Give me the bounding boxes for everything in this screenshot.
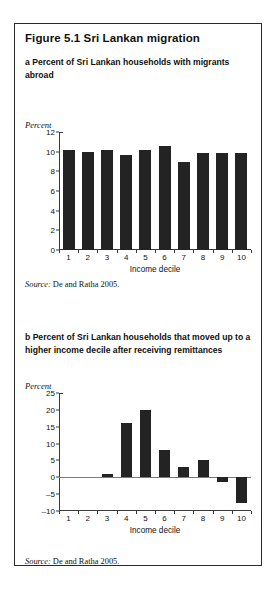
x-tick-mark — [59, 250, 60, 253]
bar — [139, 150, 151, 250]
x-tick-mark — [251, 511, 252, 514]
x-tick-mark — [97, 511, 98, 514]
y-tick-label: 6 — [33, 187, 55, 196]
x-tick-label: 6 — [162, 514, 166, 523]
bar — [82, 152, 94, 250]
bar — [217, 477, 228, 482]
y-tick-label: 20 — [33, 405, 55, 414]
bar — [159, 450, 170, 477]
panel-a-title: a Percent of Sri Lankan households with … — [25, 56, 253, 81]
x-axis-title-a: Income decile — [59, 265, 251, 274]
bar-group-a — [59, 132, 251, 250]
x-tick-mark — [155, 250, 156, 253]
y-tick-label: –5 — [33, 490, 55, 499]
bar — [198, 460, 209, 477]
x-tick-mark — [155, 511, 156, 514]
y-tick-label: 10 — [33, 439, 55, 448]
x-tick-label: 3 — [105, 253, 109, 262]
y-tick-label: 10 — [33, 147, 55, 156]
y-tick-label: 25 — [33, 389, 55, 398]
plot-area-a: 024681012 12345678910 Income decile — [59, 132, 251, 250]
x-tick-mark — [117, 250, 118, 253]
x-axis-title-b: Income decile — [59, 526, 251, 535]
x-tick-label: 8 — [201, 253, 205, 262]
x-tick-mark — [78, 511, 79, 514]
x-tick-mark — [213, 511, 214, 514]
y-tick-label: 15 — [33, 422, 55, 431]
y-tick-label: 5 — [33, 456, 55, 465]
bar — [102, 474, 113, 477]
x-tick-mark — [174, 250, 175, 253]
x-tick-label: 2 — [86, 253, 90, 262]
x-tick-label: 7 — [182, 253, 186, 262]
x-tick-mark — [136, 511, 137, 514]
bar — [159, 146, 171, 250]
x-tick-mark — [193, 250, 194, 253]
plot-area-b: –10–50510152025 12345678910 Income decil… — [59, 393, 251, 511]
x-tick-label: 5 — [143, 253, 147, 262]
x-tick-mark — [174, 511, 175, 514]
bar — [120, 155, 132, 250]
x-tick-label: 10 — [237, 253, 246, 262]
bar — [140, 410, 151, 477]
panel-b-source: Source: De and Ratha 2005. — [25, 557, 119, 566]
figure-title: Figure 5.1 Sri Lankan migration — [25, 32, 200, 44]
y-tick-label: 0 — [33, 473, 55, 482]
bar — [178, 467, 189, 477]
panel-b-title: b Percent of Sri Lankan households that … — [25, 331, 253, 356]
x-tick-label: 6 — [162, 253, 166, 262]
x-tick-label: 10 — [237, 514, 246, 523]
panel-a-source: Source: De and Ratha 2005. — [25, 280, 119, 289]
x-tick-label: 8 — [201, 514, 205, 523]
bar — [178, 162, 190, 251]
y-tick-label: 0 — [33, 246, 55, 255]
panel-a-source-text: De and Ratha 2005. — [51, 280, 120, 289]
bar-group-b — [59, 393, 251, 511]
x-tick-label: 4 — [124, 253, 128, 262]
x-tick-label: 3 — [105, 514, 109, 523]
bar — [101, 150, 113, 250]
x-tick-mark — [136, 250, 137, 253]
x-tick-label: 4 — [124, 514, 128, 523]
panel-a-source-label: Source: — [25, 280, 51, 289]
x-tick-mark — [213, 250, 214, 253]
bar — [216, 153, 228, 250]
x-tick-label: 1 — [66, 514, 70, 523]
y-tick-label: –10 — [33, 507, 55, 516]
x-tick-mark — [193, 511, 194, 514]
x-tick-label: 1 — [66, 253, 70, 262]
y-tick-label: 4 — [33, 206, 55, 215]
chart-panel-b: –10–50510152025 12345678910 Income decil… — [37, 393, 253, 535]
x-tick-mark — [251, 250, 252, 253]
x-tick-mark — [117, 511, 118, 514]
y-tick-label: 2 — [33, 226, 55, 235]
bar — [121, 423, 132, 477]
x-tick-label: 9 — [220, 514, 224, 523]
panel-b-source-text: De and Ratha 2005. — [51, 557, 120, 566]
x-tick-mark — [97, 250, 98, 253]
x-tick-mark — [232, 250, 233, 253]
x-tick-mark — [59, 511, 60, 514]
x-tick-label: 5 — [143, 514, 147, 523]
x-tick-mark — [232, 511, 233, 514]
bar — [236, 477, 247, 502]
x-tick-label: 2 — [86, 514, 90, 523]
panel-b-source-label: Source: — [25, 557, 51, 566]
bar — [197, 153, 209, 250]
x-tick-label: 9 — [220, 253, 224, 262]
x-tick-label: 7 — [182, 514, 186, 523]
bar — [235, 153, 247, 250]
chart-panel-a: 024681012 12345678910 Income decile — [37, 132, 253, 272]
bar — [63, 150, 75, 250]
figure-panel: Figure 5.1 Sri Lankan migration a Percen… — [14, 23, 262, 566]
y-tick-label: 8 — [33, 167, 55, 176]
y-tick-label: 12 — [33, 128, 55, 137]
x-tick-mark — [78, 250, 79, 253]
